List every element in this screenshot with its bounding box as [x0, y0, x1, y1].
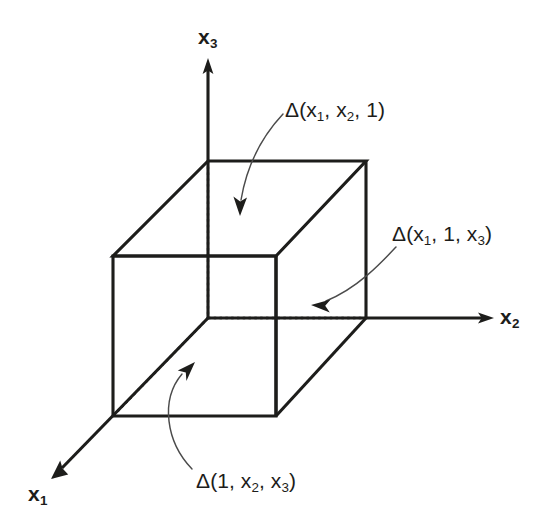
figure-canvas: x3 x2 x1 Δ(x1, x2, 1) Δ(x1, 1, x3) Δ(1, …	[0, 0, 542, 529]
callout-right-arrowhead	[311, 299, 331, 312]
callout-bottom-curve	[169, 374, 192, 469]
axis-label-x1-base: x	[28, 482, 40, 505]
callout-bottom-part-0: Δ(1, x	[196, 469, 251, 492]
callout-top-arrowhead	[233, 197, 247, 216]
callout-label-delta-bottom: Δ(1, x2, x3)	[196, 470, 296, 491]
callout-right-part-3: 3	[477, 233, 484, 248]
callout-bottom-part-4: )	[289, 469, 296, 492]
axis-label-x2-subscript: 2	[512, 316, 519, 331]
callout-top-part-2: , x	[324, 98, 346, 121]
callout-bottom-arrowhead	[178, 362, 195, 381]
callout-top-curve	[241, 114, 283, 200]
axis-label-x1: x1	[28, 483, 47, 504]
callout-bottom-part-2: , x	[259, 469, 281, 492]
axis-label-x3: x3	[198, 26, 217, 47]
callout-right-curve	[326, 247, 396, 301]
callout-bottom-part-3: 3	[281, 480, 288, 495]
callout-label-delta-top: Δ(x1, x2, 1)	[285, 99, 385, 120]
callout-top-part-3: 2	[347, 109, 354, 124]
callout-right-part-0: Δ(x	[392, 222, 424, 245]
axis-label-x2: x2	[500, 306, 519, 327]
axis-label-x3-subscript: 3	[210, 36, 217, 51]
axis-label-x1-subscript: 1	[40, 493, 47, 508]
callout-top-part-1: 1	[317, 109, 324, 124]
callout-right-part-4: )	[485, 222, 492, 245]
axis-label-x3-base: x	[198, 25, 210, 48]
callout-right-part-2: , 1, x	[431, 222, 477, 245]
axis-label-x2-base: x	[500, 305, 512, 328]
diagram-svg	[0, 0, 542, 529]
callout-bottom-part-1: 2	[251, 480, 258, 495]
callout-right-part-1: 1	[424, 233, 431, 248]
cube-bottom-right-oblique-edge	[276, 318, 366, 416]
callout-top-part-4: , 1)	[354, 98, 385, 121]
callout-label-delta-right: Δ(x1, 1, x3)	[392, 223, 492, 244]
callout-top-part-0: Δ(x	[285, 98, 317, 121]
